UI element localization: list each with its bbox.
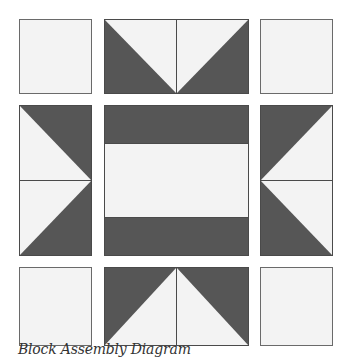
corner-square-bottom-right <box>261 268 333 346</box>
corner-square-bottom-left <box>20 268 92 346</box>
block-assembly-diagram <box>0 0 353 361</box>
corner-square-top-right <box>261 20 333 94</box>
dark-band-top <box>105 106 249 144</box>
flying-geese-top <box>105 20 249 94</box>
corner-square-top-left <box>20 20 92 94</box>
flying-geese-right <box>261 106 333 256</box>
flying-geese-bottom <box>105 268 249 346</box>
flying-geese-left <box>20 106 92 256</box>
dark-band-bottom <box>105 218 249 256</box>
diagram-caption: Block Assembly Diagram <box>18 341 191 357</box>
center-striped-block <box>105 106 249 256</box>
